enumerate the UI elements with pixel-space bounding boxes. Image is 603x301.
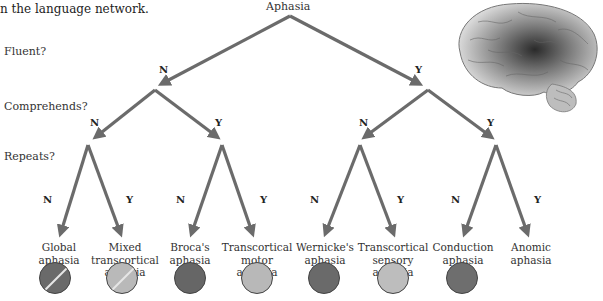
branch-label-comp-yes-right: Y bbox=[487, 117, 494, 128]
lesion-circle-transcortical-sensory bbox=[377, 262, 409, 294]
branch-label-fluent-no: N bbox=[159, 64, 168, 75]
leaf-line: Global bbox=[22, 241, 96, 254]
branch-label-comp-no-left: N bbox=[90, 117, 99, 128]
stripe-mark bbox=[41, 264, 70, 293]
branch-label-comp-yes-left: Y bbox=[215, 117, 222, 128]
branch-label-rep-yes-1: Y bbox=[126, 194, 133, 205]
leaf-line: Anomic bbox=[494, 241, 568, 254]
stripe-mark bbox=[108, 264, 137, 293]
branch-label-rep-yes-4: Y bbox=[534, 194, 541, 205]
brain-illustration-icon bbox=[448, 0, 600, 116]
leaf-line: Transcortical bbox=[220, 241, 294, 254]
branch-label-rep-no-1: N bbox=[43, 194, 52, 205]
branch-label-rep-no-4: N bbox=[451, 194, 460, 205]
branch-label-rep-no-3: N bbox=[310, 194, 319, 205]
lesion-circle-mixed-transcortical bbox=[106, 262, 138, 294]
lesion-circle-brocas bbox=[174, 262, 206, 294]
leaf-line: Wernicke's bbox=[288, 241, 362, 254]
leaf-line: Conduction bbox=[426, 241, 500, 254]
branch-label-fluent-yes: Y bbox=[415, 64, 422, 75]
leaf-line: aphasia bbox=[494, 254, 568, 267]
leaf-anomic-aphasia: Anomic aphasia bbox=[494, 241, 568, 266]
branch-label-rep-yes-2: Y bbox=[260, 194, 267, 205]
lesion-circle-wernickes bbox=[308, 262, 340, 294]
leaf-line: Mixed bbox=[88, 241, 162, 254]
lesion-circle-transcortical-motor bbox=[241, 262, 273, 294]
branch-label-comp-no-right: N bbox=[359, 117, 368, 128]
lesion-circle-conduction bbox=[446, 262, 478, 294]
lesion-circle-global bbox=[39, 262, 71, 294]
leaf-line: Broca's bbox=[153, 241, 227, 254]
branch-label-rep-no-2: N bbox=[176, 194, 185, 205]
branch-label-rep-yes-3: Y bbox=[397, 194, 404, 205]
leaf-line: Transcortical bbox=[356, 241, 430, 254]
